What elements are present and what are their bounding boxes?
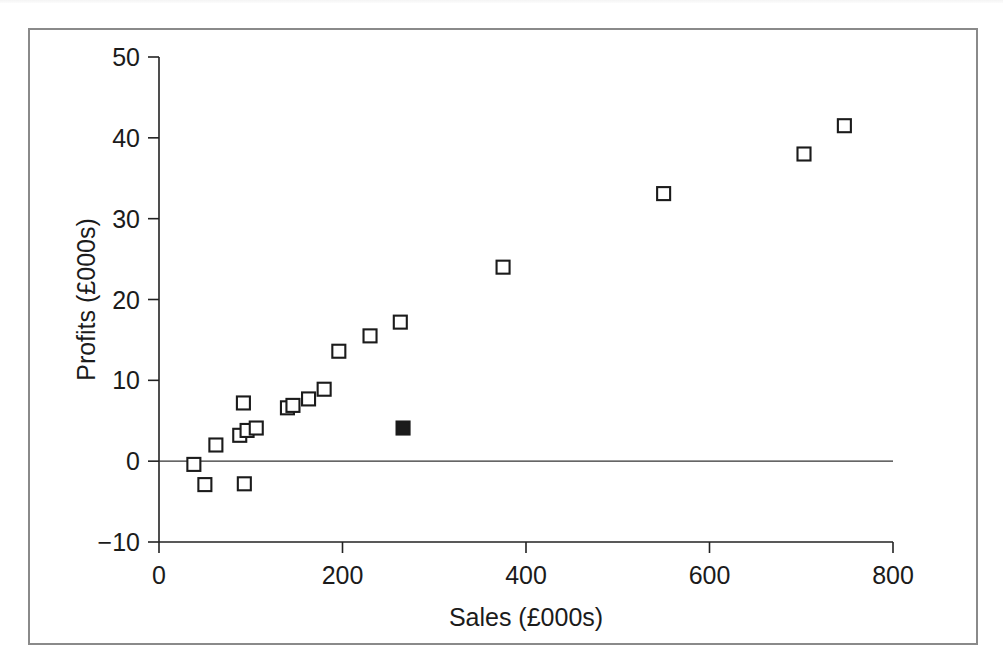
data-point [238,477,251,490]
scatter-plot: −10010203040500200400600800 Sales (£000s… [0,0,1003,671]
figure-root: −10010203040500200400600800 Sales (£000s… [0,0,1003,671]
data-point [657,187,670,200]
x-tick-label-200: 200 [322,561,364,589]
data-point [302,392,315,405]
y-tick-label-30: 30 [112,205,140,233]
y-tick-label-10: 10 [112,366,140,394]
x-tick-label-800: 800 [872,561,914,589]
data-point [209,439,222,452]
data-point [318,383,331,396]
data-point [798,148,811,161]
data-point [237,396,250,409]
y-tick-label-20: 20 [112,286,140,314]
x-tick-label-0: 0 [152,561,166,589]
ticks-group [148,57,893,553]
x-axis-title: Sales (£000s) [449,603,603,631]
data-point [250,422,263,435]
y-tick-label-50: 50 [112,43,140,71]
y-tick-label-0: 0 [126,447,140,475]
data-point [497,261,510,274]
y-tick-label-40: 40 [112,124,140,152]
x-tick-label-600: 600 [689,561,731,589]
x-tick-label-400: 400 [505,561,547,589]
data-point [187,458,200,471]
data-point [394,316,407,329]
tick-labels-group: −10010203040500200400600800 [98,43,914,589]
data-point [286,399,299,412]
data-point [198,478,211,491]
data-point [332,345,345,358]
data-markers-group [187,119,851,491]
y-axis-title: Profits (£000s) [72,218,100,381]
y-tick-label--10: −10 [98,528,140,556]
data-point [838,119,851,132]
data-point [364,329,377,342]
data-point-highlighted [397,422,410,435]
axes-group [159,57,893,542]
